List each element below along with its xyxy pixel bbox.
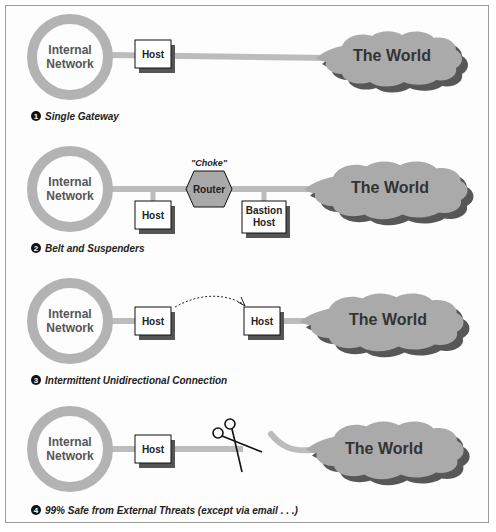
panel-caption: 99% Safe from External Threats (except v… [45,505,299,516]
panel-caption: Intermittent Unidirectional Connection [45,375,227,386]
world-label: The World [353,47,431,64]
step-number: 4 [34,506,39,515]
choke-label: "Choke" [191,158,228,168]
world-label: The World [345,440,423,457]
bastion-label-line2: Host [253,217,276,228]
panel-single-gateway: Internal Network Host The World 1 Single… [31,19,468,122]
scissors-icon [213,419,262,472]
network-label-line1: Internal [48,307,91,321]
panel-belt-and-suspenders: Internal Network "Choke" Router Host Bas… [31,151,474,254]
network-label-line2: Network [46,57,94,71]
panel-intermittent-connection: Internal Network Host Host The World 3 I… [31,283,470,386]
panel-caption: Belt and Suspenders [45,243,145,254]
severed-world-link [271,434,312,450]
world-label: The World [349,311,427,328]
dotted-transfer-arc [175,296,245,307]
network-label-line1: Internal [48,175,91,189]
step-number: 2 [34,244,39,253]
network-label-line2: Network [46,321,94,335]
host-label-left: Host [142,316,165,327]
arrowhead-icon [238,297,245,306]
host-label: Host [142,210,165,221]
host-label: Host [142,49,165,60]
network-label-line2: Network [46,449,94,463]
network-label-line1: Internal [48,435,91,449]
network-label-line2: Network [46,189,94,203]
router-label: Router [193,184,225,195]
world-label: The World [351,179,429,196]
network-label-line1: Internal [48,43,91,57]
host-label-right: Host [251,316,274,327]
firewall-diagram: Internal Network Host The World 1 Single… [0,0,496,532]
panel-99-percent-safe: Internal Network Host The World 4 99% Sa… [31,411,470,516]
panel-caption: Single Gateway [45,111,119,122]
host-label: Host [142,444,165,455]
bastion-label-line1: Bastion [246,205,283,216]
step-number: 3 [34,376,39,385]
step-number: 1 [34,112,39,121]
